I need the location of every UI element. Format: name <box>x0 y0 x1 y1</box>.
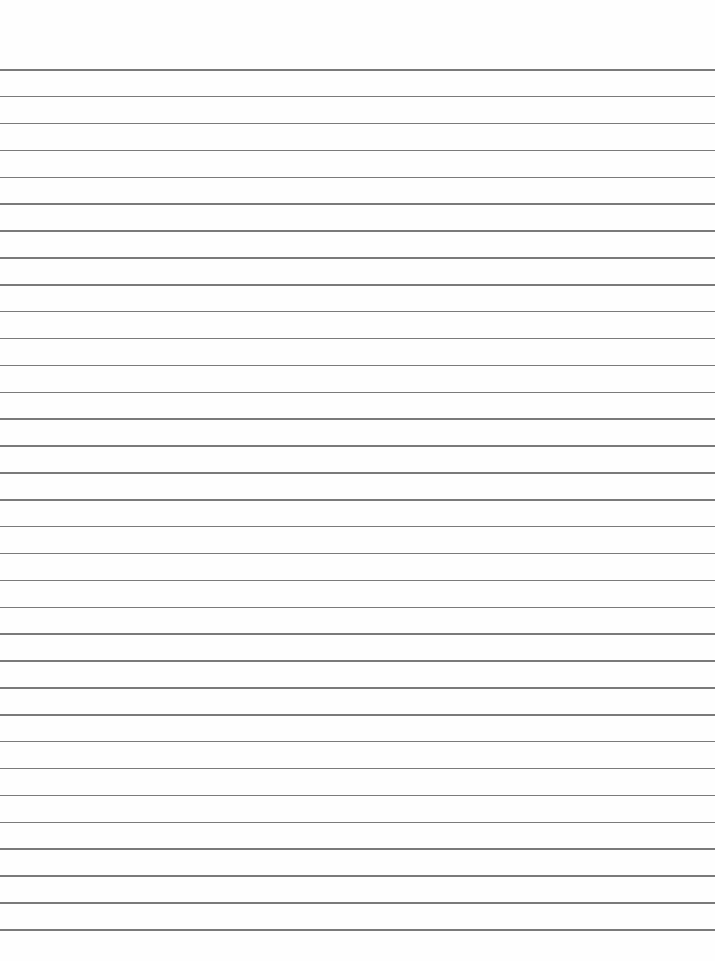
ruled-line <box>0 633 715 635</box>
ruled-line <box>0 177 715 179</box>
ruled-line <box>0 526 715 528</box>
ruled-line <box>0 123 715 125</box>
ruled-line <box>0 203 715 205</box>
ruled-line <box>0 607 715 609</box>
ruled-line <box>0 902 715 904</box>
ruled-line <box>0 848 715 850</box>
ruled-line <box>0 472 715 474</box>
ruled-line <box>0 714 715 716</box>
ruled-line <box>0 150 715 152</box>
ruled-line <box>0 822 715 824</box>
ruled-line <box>0 311 715 313</box>
ruled-line <box>0 741 715 743</box>
ruled-line <box>0 418 715 420</box>
ruled-line <box>0 69 715 71</box>
ruled-line <box>0 768 715 770</box>
ruled-line <box>0 445 715 447</box>
ruled-line <box>0 257 715 259</box>
ruled-line <box>0 338 715 340</box>
ruled-line <box>0 499 715 501</box>
ruled-line <box>0 365 715 367</box>
ruled-line <box>0 96 715 98</box>
ruled-line <box>0 230 715 232</box>
ruled-line <box>0 284 715 286</box>
ruled-line <box>0 795 715 797</box>
ruled-line <box>0 553 715 555</box>
ruled-line <box>0 660 715 662</box>
lined-paper-page <box>0 0 715 961</box>
ruled-line <box>0 687 715 689</box>
ruled-line <box>0 580 715 582</box>
ruled-line <box>0 875 715 877</box>
ruled-line <box>0 929 715 931</box>
ruled-line <box>0 392 715 394</box>
